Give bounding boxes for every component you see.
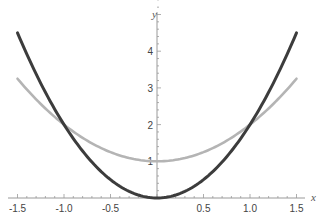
x-tick-label: -1.0: [55, 203, 73, 214]
x-tick-label: 1.5: [290, 203, 304, 214]
x-tick-label: -0.5: [102, 203, 120, 214]
y-tick-label: 3: [147, 83, 153, 94]
y-tick-label: 4: [147, 46, 153, 57]
y-axis-label: y: [151, 8, 157, 20]
plot-area: -1.5-1.0-0.50.51.01.51234xy: [0, 0, 321, 217]
x-tick-label: 1.0: [243, 203, 257, 214]
x-tick-label: -1.5: [9, 203, 27, 214]
y-tick-label: 2: [147, 120, 153, 131]
x-tick-label: 0.5: [197, 203, 211, 214]
x-axis-label: x: [310, 191, 316, 203]
chart: -1.5-1.0-0.50.51.01.51234xy: [0, 0, 321, 217]
